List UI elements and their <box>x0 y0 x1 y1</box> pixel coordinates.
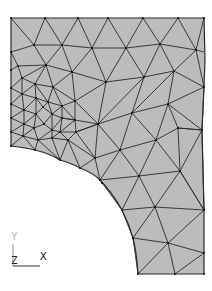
mesh-node <box>10 103 12 105</box>
mesh-node <box>154 206 156 208</box>
mesh-node <box>22 135 24 137</box>
mesh-node <box>37 139 39 141</box>
mesh-node <box>94 157 96 159</box>
mesh-node <box>143 76 145 78</box>
mesh-node <box>33 127 35 129</box>
mesh-node <box>203 209 205 211</box>
mesh-node <box>59 159 61 161</box>
mesh-node <box>23 123 25 125</box>
mesh-node <box>77 17 79 19</box>
mesh-node <box>52 86 54 88</box>
mesh-node <box>61 105 63 107</box>
mesh-node <box>91 47 93 49</box>
mesh-node <box>61 117 63 119</box>
mesh-node <box>34 83 36 85</box>
mesh-node <box>155 139 157 141</box>
mesh-node <box>71 71 73 73</box>
mesh-node <box>10 117 12 119</box>
mesh-node <box>34 149 36 151</box>
mesh-node <box>125 47 127 49</box>
mesh-node <box>45 64 47 66</box>
mesh-node <box>173 70 175 72</box>
mesh-node <box>177 127 179 129</box>
mesh-node <box>10 145 12 147</box>
mesh-node <box>47 101 49 103</box>
mesh-node <box>131 112 133 114</box>
mesh-node <box>167 242 169 244</box>
mesh-node <box>167 103 169 105</box>
mesh-node <box>10 51 12 53</box>
mesh-node <box>137 273 139 275</box>
mesh-node <box>203 17 205 19</box>
mesh-node <box>51 129 53 131</box>
mesh-node <box>10 87 12 89</box>
mesh-node <box>10 69 12 71</box>
mesh-node <box>42 106 44 108</box>
mesh-node <box>74 100 76 102</box>
mesh-node <box>67 139 69 141</box>
mesh-node <box>43 123 45 125</box>
mesh-node <box>61 44 63 46</box>
mesh-node <box>33 44 35 46</box>
mesh-node <box>59 131 61 133</box>
mesh-node <box>203 86 205 88</box>
z-axis-label: Z <box>11 254 18 267</box>
mesh-node <box>203 252 205 254</box>
mesh-node <box>119 149 121 151</box>
mesh-node <box>35 97 37 99</box>
mesh-node <box>138 175 140 177</box>
mesh-node <box>10 131 12 133</box>
mesh-node <box>121 209 123 211</box>
mesh-node <box>74 119 76 121</box>
mesh-node <box>23 109 25 111</box>
mesh-node <box>101 182 103 184</box>
mesh-node <box>99 179 101 181</box>
mesh-node <box>159 43 161 45</box>
mesh-node <box>79 167 81 169</box>
mesh-node <box>51 137 53 139</box>
mesh-node <box>203 273 205 275</box>
mesh-node <box>107 17 109 19</box>
mesh-node <box>179 170 181 172</box>
mesh-node <box>142 17 144 19</box>
mesh-node <box>17 65 19 67</box>
mesh-node <box>97 123 99 125</box>
fea-viewport[interactable]: Y Z X <box>0 0 212 291</box>
y-axis-label: Y <box>11 230 18 243</box>
mesh-node <box>195 49 197 51</box>
mesh-node <box>177 17 179 19</box>
mesh-node <box>75 131 77 133</box>
mesh-node <box>51 113 53 115</box>
mesh-node <box>10 17 12 19</box>
mesh-node <box>21 93 23 95</box>
mesh-plot: Y Z X <box>0 0 212 291</box>
mesh-node <box>21 77 23 79</box>
x-axis-label: X <box>40 250 47 263</box>
mesh-node <box>174 273 176 275</box>
mesh-node <box>105 81 107 83</box>
mesh-node <box>201 129 203 131</box>
mesh-node <box>132 237 134 239</box>
mesh-node <box>35 113 37 115</box>
mesh-node <box>44 17 46 19</box>
